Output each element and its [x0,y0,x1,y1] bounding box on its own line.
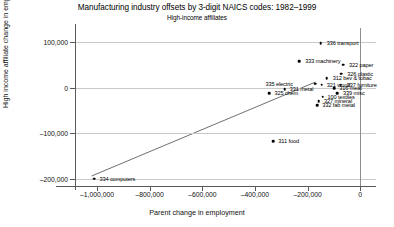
y-axis-title: High income affiliate change in employme… [2,0,9,108]
data-point [318,100,321,103]
y-gridline [76,133,376,134]
data-point-label: 332 fab metal [322,102,355,108]
x-axis-tick-label: 0 [358,191,362,198]
chart-subtitle: High-income affiliates [0,14,394,21]
data-point [314,83,317,86]
x-axis-tick-label: –600,000 [188,191,216,198]
chart-title: Manufacturing industry offsets by 3-digi… [0,3,394,12]
scatter-chart-figure: Manufacturing industry offsets by 3-digi… [0,0,394,227]
x-axis-tick-label: –400,000 [241,191,269,198]
data-point-label: 311 food [278,138,299,144]
data-point-label: 325 chem [274,90,298,96]
data-point [268,92,271,95]
y-axis-tick-label: 0 [64,84,68,91]
data-point-label: 333 machinery [305,58,340,64]
x-axis-tick-label: –200,000 [293,191,321,198]
y-axis-tick-label: 100,000 [43,38,68,45]
data-point [319,42,322,45]
y-axis-tick [70,133,76,134]
x-axis-tick-label: –800,000 [135,191,163,198]
data-point [272,140,275,143]
data-point [316,104,319,107]
y-axis-tick-label: –100,000 [40,130,68,137]
x-axis-line [56,186,376,187]
data-point [298,60,301,63]
y-axis-tick-label: –200,000 [40,176,68,183]
x-axis-tick-label: –1,000,000 [80,191,114,198]
data-point [320,83,323,86]
x-axis-title: Parent change in employment [0,208,394,217]
data-point-label: 336 transport [327,40,359,46]
data-point-label: 334 computers [99,176,135,182]
y-axis-tick [70,179,76,180]
x-gridline-zero [360,28,361,186]
data-point [325,77,328,80]
data-point-label: 322 paper [349,62,373,68]
y-axis-tick [70,42,76,43]
y-axis-tick [70,88,76,89]
data-point [93,177,96,180]
data-point [342,63,345,66]
data-point [333,87,336,90]
data-point-label: 312 bev & tobac [333,75,372,81]
plot-area: 100,0000–100,000–200,000–1,000,000–800,0… [76,28,376,186]
